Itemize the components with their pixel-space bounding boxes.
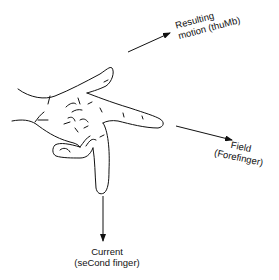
motion-arrow — [128, 33, 170, 52]
arrows — [103, 33, 232, 241]
current-label: Current (seCond finger) — [72, 246, 142, 268]
hand-illustration — [12, 67, 163, 193]
current-label-line1: Current — [72, 246, 142, 257]
current-label-line2: (seCond finger) — [72, 257, 142, 268]
